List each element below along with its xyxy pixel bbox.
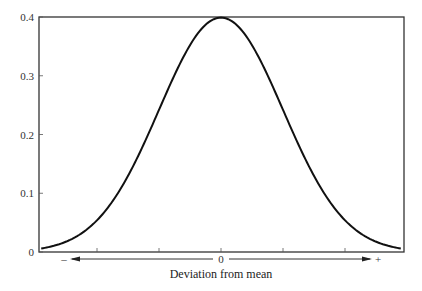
normal-curve: [41, 18, 401, 249]
arrow-minus-label: –: [60, 253, 67, 265]
arrow-plus-label: +: [375, 253, 381, 265]
deviation-arrow: – 0 +: [60, 253, 381, 265]
y-tick-label: 0.3: [20, 70, 34, 82]
plot-frame: [39, 17, 404, 252]
arrow-zero-label: 0: [218, 253, 224, 265]
x-axis-title: Deviation from mean: [170, 267, 273, 281]
y-tick-label: 0.4: [20, 11, 34, 23]
arrow-left-icon: [70, 257, 80, 262]
y-tick-label: 0.2: [20, 129, 34, 141]
arrow-right-icon: [362, 257, 372, 262]
y-tick-label: 0: [29, 246, 35, 258]
normal-distribution-chart: 00.10.20.30.4 – 0 + Deviation from mean: [0, 0, 422, 291]
y-tick-label: 0.1: [20, 187, 34, 199]
